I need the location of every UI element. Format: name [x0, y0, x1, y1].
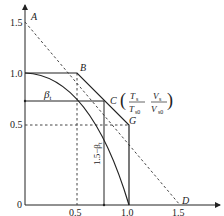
beta-label: βt: [43, 88, 51, 102]
c-annotation: ( T s T s0 V s V s0 ): [120, 90, 173, 115]
point-label-b: B: [80, 62, 86, 73]
y-tick-1.0: 1.0: [10, 68, 23, 79]
x-tick-1.0: 1.0: [121, 207, 134, 216]
svg-text:V: V: [151, 104, 158, 114]
svg-text:s0: s0: [135, 109, 140, 115]
x-tick-1.5: 1.5: [172, 207, 185, 216]
svg-text:): ): [167, 90, 173, 111]
svg-text:s: s: [136, 96, 139, 102]
svg-text:s0: s0: [158, 109, 163, 115]
svg-text:(: (: [120, 90, 126, 111]
y-tick-0: 0: [17, 199, 22, 210]
vertical-label: 1.5−βt: [92, 142, 103, 165]
dashed-line-ad: [25, 22, 180, 205]
svg-text:s: s: [159, 96, 162, 102]
y-tick-0.5: 0.5: [10, 119, 23, 130]
point-label-a: A: [30, 11, 38, 22]
point-label-g: G: [129, 115, 136, 126]
point-label-c: C: [110, 95, 117, 106]
y-tick-1.5: 1.5: [10, 17, 23, 28]
x-tick-0.5-vis: 0.5: [69, 207, 82, 216]
point-label-d: D: [181, 195, 190, 206]
interaction-diagram: 1.5 1.0 0.5 0 0.5 0.5 1.0 1.5 A B C G D …: [0, 0, 224, 216]
